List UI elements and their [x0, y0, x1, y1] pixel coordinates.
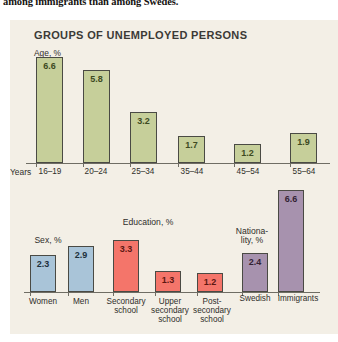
cat-label-age-45-54: 45–54: [228, 167, 268, 176]
bar-sex-men: 2.9: [68, 246, 94, 292]
bar-age-20-24: 5.8: [83, 70, 110, 163]
bar-value-age-20-24: 5.8: [84, 74, 109, 84]
bar-value-nat-swedish: 2.4: [243, 257, 267, 267]
figure-panel: GROUPS OF UNEMPLOYED PERSONS Age, % 6.6 …: [10, 20, 338, 334]
bar-value-age-25-34: 3.2: [131, 116, 156, 126]
bar-value-age-35-44: 1.7: [179, 140, 204, 150]
bar-value-edu-upper-secondary: 1.3: [156, 275, 180, 285]
bar-value-sex-women: 2.3: [31, 259, 55, 269]
tick-grp-2: [68, 292, 69, 296]
bar-nat-immigrants: 6.6: [278, 190, 304, 292]
tick-grp-5: [197, 292, 198, 296]
cat-label-age-20-24: 20–24: [76, 167, 116, 176]
bar-edu-post-secondary: 1.2: [197, 273, 223, 292]
group-label-education: Education, %: [110, 218, 186, 228]
bar-age-25-34: 3.2: [130, 112, 157, 163]
bar-value-sex-men: 2.9: [69, 250, 93, 260]
bar-edu-secondary: 3.3: [113, 240, 139, 292]
bar-value-age-16-19: 6.6: [37, 61, 62, 71]
bar-age-45-54: 1.2: [234, 144, 261, 163]
bar-value-age-45-54: 1.2: [235, 148, 260, 158]
bar-age-16-19: 6.6: [36, 57, 63, 163]
bar-value-nat-immigrants: 6.6: [279, 194, 303, 204]
body-caption-text: among immigrants than among Swedes.: [3, 0, 333, 8]
bar-value-age-55-64: 1.9: [291, 137, 316, 147]
bar-edu-upper-secondary: 1.3: [155, 271, 181, 292]
cat-label-age-25-34: 25–34: [123, 167, 163, 176]
bar-age-35-44: 1.7: [178, 136, 205, 163]
cat-label-age-55-64: 55–64: [284, 167, 324, 176]
cat-label-age-35-44: 35–44: [172, 167, 212, 176]
bar-sex-women: 2.3: [30, 255, 56, 292]
tick-grp-1: [30, 292, 31, 296]
tick-grp-3: [113, 292, 114, 296]
bar-nat-swedish: 2.4: [242, 253, 268, 292]
bar-value-edu-secondary: 3.3: [114, 244, 138, 254]
bar-age-55-64: 1.9: [290, 133, 317, 163]
page-title: GROUPS OF UNEMPLOYED PERSONS: [34, 29, 247, 41]
chart-age-axis-caption: Years: [10, 167, 31, 177]
bar-value-edu-post-secondary: 1.2: [198, 277, 222, 287]
group-label-nationality-line2: lity, %: [226, 236, 278, 246]
cat-label-age-16-19: 16–19: [30, 167, 70, 176]
group-label-sex: Sex, %: [26, 236, 70, 246]
tick-grp-4: [155, 292, 156, 296]
